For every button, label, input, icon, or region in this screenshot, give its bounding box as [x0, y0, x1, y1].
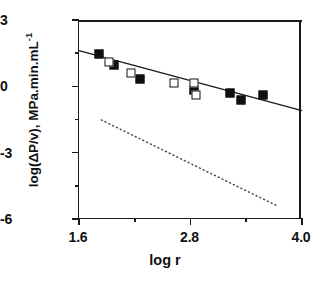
x-tick-minor: [134, 218, 136, 222]
chart-figure: 30-3-6 1.62.84.0 log r log(ΔP/v), MPa.mi…: [0, 0, 330, 282]
x-tick-label: 1.6: [69, 229, 88, 245]
x-tick-major: [190, 218, 192, 225]
data-point-open-square: [127, 68, 136, 77]
data-point-filled-square: [258, 90, 267, 99]
y-axis-title-wrap: log(ΔP/v), MPa.min.mL-1: [0, 0, 78, 219]
x-tick-major: [301, 218, 303, 225]
data-lines-overlay: [79, 20, 302, 219]
x-tick-label: 2.8: [180, 229, 199, 245]
data-point-filled-square: [236, 95, 245, 104]
y-axis-title-exponent: -1: [23, 32, 34, 40]
plot-area: [78, 20, 301, 219]
x-tick-minor: [245, 218, 247, 222]
data-point-open-square: [192, 90, 201, 99]
reference-line: [101, 120, 276, 205]
x-axis-title: log r: [0, 252, 330, 268]
x-tick-major: [78, 218, 80, 225]
data-point-filled-square: [225, 88, 234, 97]
data-point-open-square: [169, 79, 178, 88]
y-axis-title: log(ΔP/v), MPa.min.mL-1: [23, 10, 41, 210]
x-tick-label: 4.0: [292, 229, 311, 245]
y-axis-title-text: log(ΔP/v), MPa.min.mL: [26, 41, 41, 187]
data-point-open-square: [104, 58, 113, 67]
data-point-open-square: [190, 78, 199, 87]
data-point-filled-square: [95, 50, 104, 59]
data-point-filled-square: [136, 75, 145, 84]
